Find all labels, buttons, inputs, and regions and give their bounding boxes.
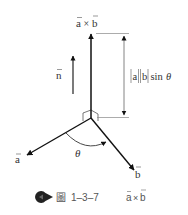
vector-b — [91, 118, 134, 170]
vector-a — [27, 118, 91, 155]
caption-formula-b: b — [140, 192, 146, 203]
magnitude-label-a: a — [133, 71, 138, 82]
vector-a-label-text: a — [15, 153, 20, 165]
vector-b-label: b — [135, 167, 141, 180]
figure-number: 1–3–7 — [71, 192, 99, 203]
caption-formula-times: × — [133, 193, 138, 203]
figure-caption: 圖 1–3–7 a × b — [35, 190, 146, 203]
unit-normal-label: n — [56, 69, 62, 81]
vector-a-label: a — [15, 153, 21, 165]
vector-b-label-text: b — [135, 168, 141, 180]
angle-label: θ — [75, 147, 81, 159]
caption-formula-a: a — [126, 192, 132, 203]
cross-product-label: a × b — [76, 16, 98, 29]
magnitude-label-sin: sin — [151, 71, 164, 82]
magnitude-label: a b sin θ — [131, 69, 171, 83]
cross-product-label-b: b — [92, 17, 98, 29]
cross-product-label-times: × — [84, 18, 90, 29]
magnitude-label-theta: θ — [166, 71, 171, 82]
pacman-bullet-icon — [35, 191, 53, 203]
cross-product-label-a: a — [76, 17, 81, 29]
magnitude-dimension — [96, 34, 129, 118]
angle-arc — [66, 133, 106, 146]
figure-char: 圖 — [56, 192, 66, 203]
magnitude-label-b: b — [142, 71, 147, 82]
cross-product-diagram: a × b n a b sin θ a b θ 圖 — [0, 0, 188, 215]
unit-normal-label-text: n — [56, 69, 62, 81]
